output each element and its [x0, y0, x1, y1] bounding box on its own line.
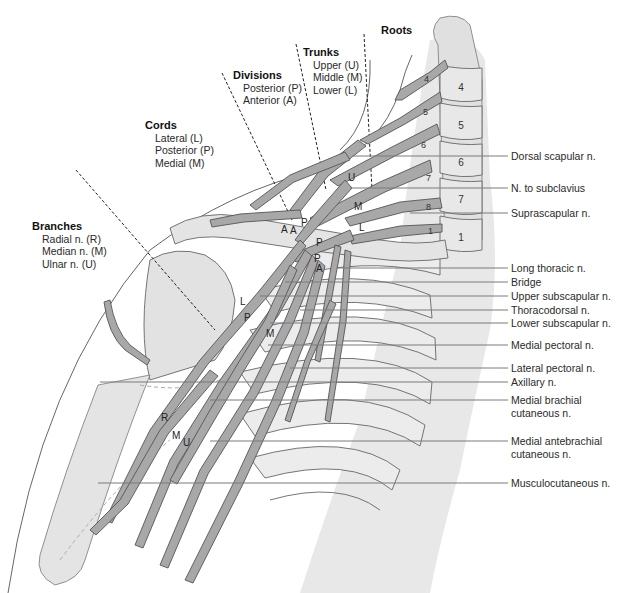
label-suprascapular: Suprascapular n. [511, 207, 590, 220]
branches-group: Branches Radial n. (R) Median n. (M) Uln… [32, 220, 107, 270]
svg-text:4: 4 [424, 74, 429, 84]
svg-text:P: P [244, 312, 251, 323]
label-lateral-pectoral: Lateral pectoral n. [511, 362, 595, 375]
vertebra-label: 7 [458, 194, 464, 205]
branch-ulnar-label: Ulnar n. (U) [32, 258, 107, 271]
label-bridge: Bridge [511, 276, 541, 289]
divisions-group: Divisions Posterior (P) Anterior (A) [233, 69, 302, 107]
svg-text:M: M [172, 430, 180, 441]
division-posterior-label: Posterior (P) [233, 82, 302, 95]
vertebra-label: 4 [458, 82, 464, 93]
roots-group: Roots [381, 24, 412, 37]
branch-median-label: Median n. (M) [32, 245, 107, 258]
svg-text:L: L [240, 296, 246, 307]
svg-text:1: 1 [428, 226, 433, 236]
divisions-title: Divisions [233, 69, 302, 82]
label-medial-brachial-cutaneous: Medial brachial cutaneous n. [511, 394, 582, 419]
cords-title: Cords [145, 119, 214, 132]
label-dorsal-scapular: Dorsal scapular n. [511, 150, 596, 163]
svg-text:A: A [290, 225, 297, 236]
trunks-title: Trunks [303, 46, 363, 59]
label-thoracodorsal: Thoracodorsal n. [511, 304, 590, 317]
svg-text:P: P [301, 217, 308, 228]
branch-radial-label: Radial n. (R) [32, 233, 107, 246]
vertebra-label: 1 [458, 232, 464, 243]
label-n-to-subclavius: N. to subclavius [511, 182, 585, 195]
cords-group: Cords Lateral (L) Posterior (P) Medial (… [145, 119, 214, 169]
label-line-1: Medial brachial [511, 394, 582, 407]
vertebra-label: 5 [458, 120, 464, 131]
label-line-2: cutaneous n. [511, 448, 602, 461]
svg-text:8: 8 [426, 202, 431, 212]
trunk-upper-label: Upper (U) [303, 59, 363, 72]
label-long-thoracic: Long thoracic n. [511, 262, 586, 275]
scapula [144, 251, 235, 380]
svg-text:U: U [183, 437, 190, 448]
label-line-2: cutaneous n. [511, 407, 582, 420]
svg-text:P: P [316, 237, 323, 248]
label-line-1: Medial antebrachial [511, 435, 602, 448]
svg-text:A: A [316, 263, 323, 274]
svg-text:6: 6 [421, 140, 426, 150]
label-upper-subscapular: Upper subscapular n. [511, 290, 611, 303]
svg-text:L: L [359, 222, 365, 233]
label-axillary: Axillary n. [511, 376, 557, 389]
svg-text:R: R [161, 412, 168, 423]
cord-lateral-label: Lateral (L) [145, 132, 214, 145]
division-anterior-label: Anterior (A) [233, 94, 302, 107]
svg-text:5: 5 [423, 107, 428, 117]
label-lower-subscapular: Lower subscapular n. [511, 317, 611, 330]
vertebral-column: 4 5 6 7 1 [433, 16, 482, 251]
label-medial-pectoral: Medial pectoral n. [511, 339, 594, 352]
svg-text:M: M [266, 328, 274, 339]
label-medial-antebrachial-cutaneous: Medial antebrachial cutaneous n. [511, 435, 602, 460]
svg-text:A: A [281, 224, 288, 235]
cord-posterior-label: Posterior (P) [145, 144, 214, 157]
svg-text:M: M [354, 201, 362, 212]
label-musculocutaneous: Musculocutaneous n. [511, 477, 610, 490]
cord-medial-label: Medial (M) [145, 157, 214, 170]
roots-title: Roots [381, 24, 412, 37]
svg-text:U: U [348, 172, 355, 183]
branches-title: Branches [32, 220, 107, 233]
svg-text:7: 7 [426, 173, 431, 183]
trunks-group: Trunks Upper (U) Middle (M) Lower (L) [303, 46, 363, 96]
trunk-lower-label: Lower (L) [303, 84, 363, 97]
vertebra-label: 6 [458, 157, 464, 168]
trunk-middle-label: Middle (M) [303, 71, 363, 84]
